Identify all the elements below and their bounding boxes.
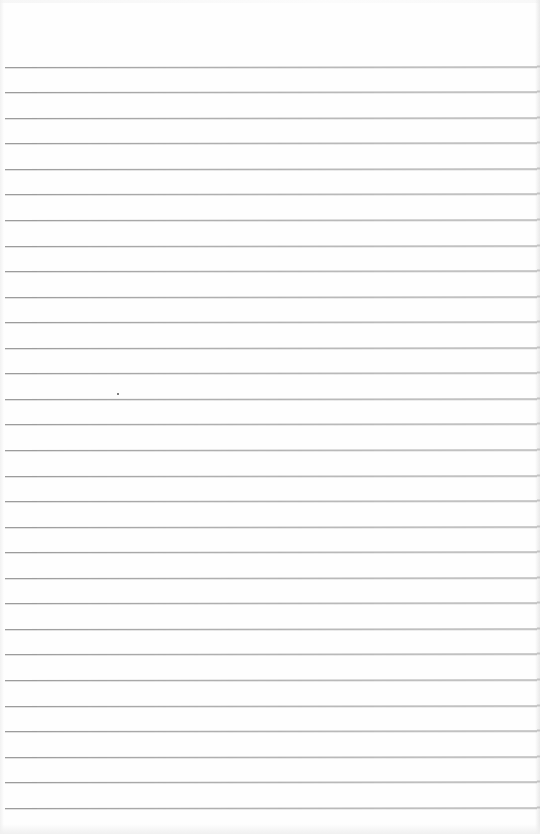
ruled-line	[5, 92, 537, 93]
ruled-line	[5, 501, 537, 502]
ruled-line	[5, 654, 537, 655]
ink-speck	[117, 393, 119, 395]
page-right-edge-shadow	[535, 0, 540, 834]
ruled-line	[5, 449, 537, 450]
ruled-line	[5, 373, 537, 374]
ruled-line	[5, 679, 537, 680]
ruled-line	[5, 475, 537, 476]
ruled-line	[5, 577, 537, 578]
ruled-line	[5, 756, 537, 757]
ruled-page	[0, 0, 540, 834]
ruled-line	[5, 66, 537, 67]
ruled-line	[5, 424, 537, 425]
ruled-line	[5, 296, 537, 297]
page-left-edge-shadow	[0, 0, 4, 834]
ruled-line	[5, 603, 537, 604]
ruled-line	[5, 398, 537, 399]
ruled-line	[5, 143, 537, 144]
ruled-line	[5, 245, 537, 246]
ruled-line	[5, 194, 537, 195]
ruled-line	[5, 731, 537, 732]
ruled-line	[5, 552, 537, 553]
ruled-line	[5, 782, 537, 783]
ruled-line	[5, 220, 537, 221]
ruled-line	[5, 168, 537, 169]
ruled-line	[5, 628, 537, 629]
ruled-line	[5, 347, 537, 348]
ruled-line	[5, 271, 537, 272]
scan-top-edge	[0, 0, 540, 3]
ruled-line	[5, 526, 537, 527]
ruled-line	[5, 705, 537, 706]
ruled-line	[5, 117, 537, 118]
scan-bottom-edge	[0, 824, 540, 834]
ruled-line	[5, 322, 537, 323]
ruled-line	[5, 807, 537, 808]
